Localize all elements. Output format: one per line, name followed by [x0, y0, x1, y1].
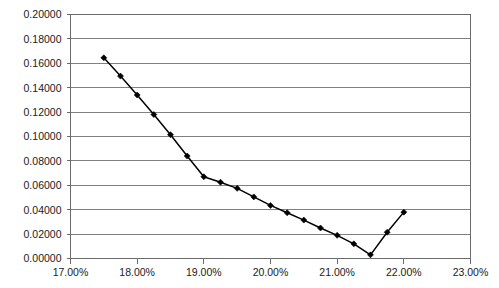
y-tick-label: 0.18000 — [24, 33, 62, 45]
y-axis-tick-labels: 0.000000.020000.040000.060000.080000.100… — [24, 8, 62, 264]
x-axis-tick-labels: 17.00%18.00%19.00%20.00%21.00%22.00%23.0… — [53, 266, 489, 278]
x-tick-label: 22.00% — [386, 266, 422, 278]
y-tick-label: 0.16000 — [24, 57, 62, 69]
gridlines — [71, 15, 471, 235]
y-tick-label: 0.14000 — [24, 82, 62, 94]
data-point-marker — [268, 202, 274, 208]
y-tick-label: 0.02000 — [24, 228, 62, 240]
x-axis-tickmarks — [71, 259, 471, 264]
data-point-marker — [218, 179, 224, 185]
data-point-marker — [318, 225, 324, 231]
x-tick-label: 23.00% — [453, 266, 489, 278]
x-tick-label: 17.00% — [53, 266, 89, 278]
y-axis-tickmarks — [67, 15, 71, 259]
x-tick-label: 21.00% — [319, 266, 355, 278]
data-point-marker — [301, 217, 307, 223]
data-point-marker — [284, 210, 290, 216]
x-tick-label: 19.00% — [186, 266, 222, 278]
data-point-marker — [251, 194, 257, 200]
x-tick-label: 18.00% — [119, 266, 155, 278]
y-tick-label: 0.04000 — [24, 204, 62, 216]
y-tick-label: 0.10000 — [24, 130, 62, 142]
y-tick-label: 0.06000 — [24, 179, 62, 191]
y-tick-label: 0.12000 — [24, 106, 62, 118]
y-tick-label: 0.08000 — [24, 155, 62, 167]
y-tick-label: 0.00000 — [24, 252, 62, 264]
x-tick-label: 20.00% — [253, 266, 289, 278]
line-chart: 0.000000.020000.040000.060000.080000.100… — [0, 0, 499, 288]
data-point-marker — [234, 185, 240, 191]
chart-container: 0.000000.020000.040000.060000.080000.100… — [0, 0, 499, 288]
data-series — [101, 55, 407, 258]
y-tick-label: 0.20000 — [24, 8, 62, 20]
data-point-marker — [334, 232, 340, 238]
